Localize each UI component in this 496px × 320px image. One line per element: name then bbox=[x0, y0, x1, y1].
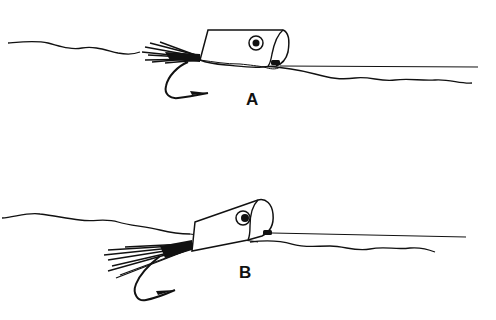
line-eyelet bbox=[263, 230, 272, 235]
water-surface-left bbox=[8, 41, 140, 54]
water-surface-right bbox=[265, 66, 472, 83]
fishing-line bbox=[280, 66, 478, 67]
figure-label-a: A bbox=[246, 90, 258, 110]
water-surface-left bbox=[2, 214, 190, 234]
figure-a: A bbox=[0, 0, 496, 160]
popper-illustration-b bbox=[0, 160, 496, 320]
popper-illustration-a bbox=[0, 0, 496, 160]
fishing-line bbox=[272, 233, 466, 237]
popper-body bbox=[192, 200, 273, 251]
line-eyelet bbox=[271, 60, 280, 65]
figure-label-b: B bbox=[239, 263, 251, 283]
figure-b: B bbox=[0, 160, 496, 320]
water-surface-right bbox=[250, 241, 435, 252]
